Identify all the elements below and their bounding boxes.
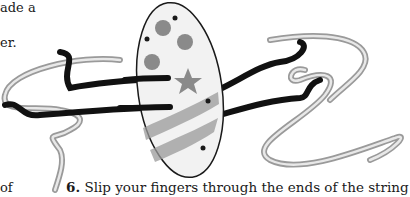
spinner-toy-illustration xyxy=(0,0,410,197)
oval-disc-icon xyxy=(126,0,234,183)
